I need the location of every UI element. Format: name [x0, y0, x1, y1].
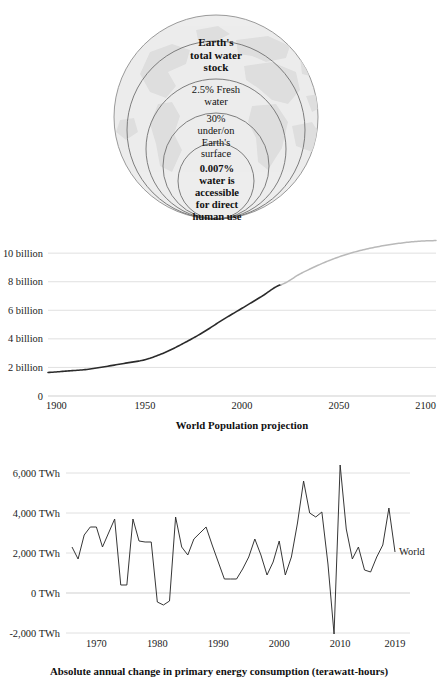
y-tick-label: 2 billion: [8, 362, 44, 373]
chart-title: World Population projection: [176, 419, 308, 431]
world-population-chart-panel: 02 billion4 billion6 billion8 billion10 …: [0, 228, 439, 440]
y-tick-label: -2,000 TWh: [9, 628, 60, 639]
x-tick-label: 2100: [415, 400, 436, 411]
water-stock-globe-panel: Earth'stotal waterstock 2.5% Freshwater …: [0, 0, 439, 228]
y-tick-label: 8 billion: [8, 276, 44, 287]
population-series-projection: [281, 241, 436, 285]
globe-label-total-water-stock: Earth'stotal waterstock: [168, 36, 264, 74]
y-tick-label: 10 billion: [3, 248, 44, 259]
globe-label-under-on-surface: 30%under/onEarth'ssurface: [172, 113, 260, 160]
x-tick-label: 1900: [46, 400, 67, 411]
population-series-historical: [48, 285, 281, 373]
globe-label-accessible-water: 0.007%water isaccessiblefor directhuman …: [172, 163, 262, 223]
x-tick-label: 2010: [330, 638, 351, 649]
energy-series-World: [72, 465, 395, 634]
x-tick-label: 2050: [329, 400, 350, 411]
y-tick-label: 4,000 TWh: [13, 508, 61, 519]
x-tick-label: 1990: [208, 638, 229, 649]
annual-energy-change-chart: -2,000 TWh0 TWh2,000 TWh4,000 TWh6,000 T…: [0, 443, 439, 685]
x-tick-label: 2000: [269, 638, 290, 649]
series-label-world: World: [399, 546, 426, 557]
y-tick-label: 0: [38, 391, 43, 402]
x-tick-label: 1950: [135, 400, 156, 411]
world-population-chart: 02 billion4 billion6 billion8 billion10 …: [0, 228, 439, 440]
annual-energy-change-chart-panel: -2,000 TWh0 TWh2,000 TWh4,000 TWh6,000 T…: [0, 443, 439, 685]
chart-title: Absolute annual change in primary energy…: [50, 665, 388, 678]
x-tick-label: 1970: [86, 638, 107, 649]
y-tick-label: 6,000 TWh: [13, 468, 61, 479]
x-tick-label: 1980: [147, 638, 168, 649]
y-tick-label: 6 billion: [8, 305, 44, 316]
y-tick-label: 0 TWh: [31, 588, 61, 599]
x-tick-label: 2019: [385, 638, 406, 649]
y-tick-label: 2,000 TWh: [13, 548, 61, 559]
globe-label-fresh-water: 2.5% Freshwater: [166, 84, 266, 108]
x-tick-label: 2000: [232, 400, 253, 411]
y-tick-label: 4 billion: [8, 333, 44, 344]
